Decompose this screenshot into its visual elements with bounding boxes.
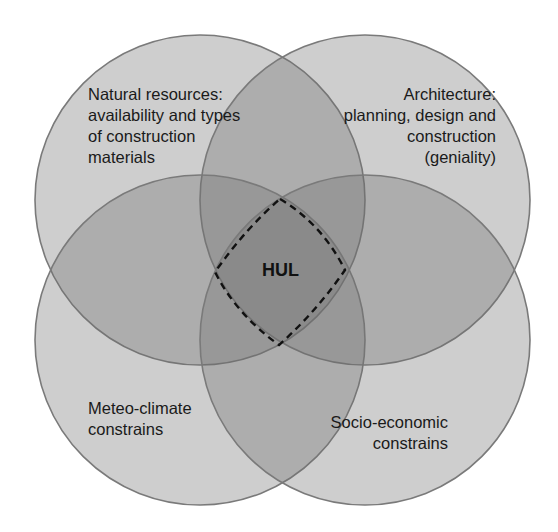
circle-socio-economic xyxy=(200,175,530,505)
label-socio-economic: Socio-economic constrains xyxy=(331,412,448,454)
hul-label: HUL xyxy=(262,260,299,281)
label-architecture: Architecture: planning, design and const… xyxy=(344,84,496,168)
label-natural-resources: Natural resources: availability and type… xyxy=(88,84,240,168)
label-meteo-climate: Meteo-climate constrains xyxy=(88,398,192,440)
